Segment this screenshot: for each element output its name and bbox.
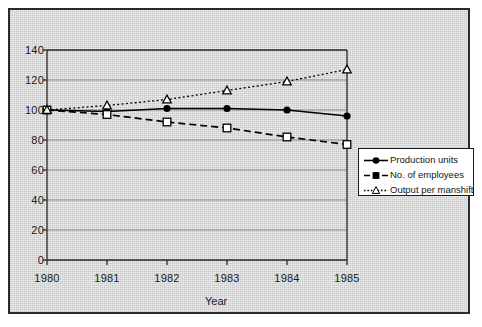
legend-label: No. of employees (389, 168, 464, 181)
y-tick-label: 0 (14, 254, 44, 266)
marker-no-of-employees (223, 124, 231, 132)
x-tick-label: 1981 (84, 272, 130, 284)
marker-no-of-employees (103, 111, 111, 119)
legend-key-open-triangle-icon (363, 183, 389, 196)
marker-production-units (283, 106, 290, 113)
legend-label: Output per manshift (389, 183, 473, 196)
marker-production-units (343, 112, 350, 119)
chart-screenshot: 140 120 100 80 60 40 20 0 1980 1981 1982… (0, 0, 482, 327)
legend-item-no-of-employees: No. of employees (363, 167, 469, 182)
y-tick-label: 140 (14, 44, 44, 56)
y-tick-label: 60 (14, 164, 44, 176)
x-tick-label: 1983 (204, 272, 250, 284)
y-tick-label: 100 (14, 104, 44, 116)
marker-production-units (163, 105, 170, 112)
legend-item-production-units: Production units (363, 152, 469, 167)
chart-panel: 140 120 100 80 60 40 20 0 1980 1981 1982… (8, 8, 470, 314)
legend-key-filled-circle-icon (363, 153, 389, 166)
legend-label: Production units (389, 153, 458, 166)
series-line-no-of-employees (47, 110, 347, 145)
x-tick-label: 1984 (264, 272, 310, 284)
y-tick-label: 20 (14, 224, 44, 236)
marker-no-of-employees (283, 133, 291, 141)
marker-production-units (223, 105, 230, 112)
x-tick-label: 1980 (24, 272, 70, 284)
legend-item-output-per-manshift: Output per manshift (363, 182, 469, 197)
y-tick-label: 120 (14, 74, 44, 86)
marker-output-per-manshift (223, 86, 232, 94)
marker-no-of-employees (343, 141, 351, 149)
legend-key-filled-square-icon (363, 168, 389, 181)
series-line-output-per-manshift (47, 70, 347, 111)
marker-output-per-manshift (343, 65, 352, 73)
x-tick-label: 1982 (144, 272, 190, 284)
marker-output-per-manshift (283, 77, 292, 85)
marker-no-of-employees (163, 118, 171, 126)
y-tick-label: 40 (14, 194, 44, 206)
x-axis-title: Year (205, 295, 227, 307)
x-tick-label: 1985 (324, 272, 370, 284)
y-tick-label: 80 (14, 134, 44, 146)
chart-legend: Production units No. of employees (358, 148, 474, 196)
